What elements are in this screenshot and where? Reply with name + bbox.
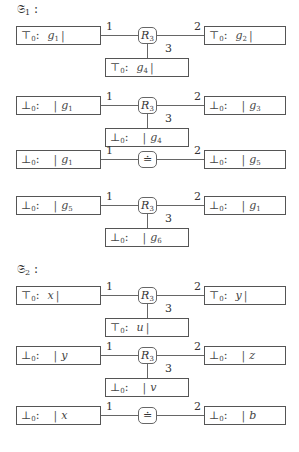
port-label-2: 2 xyxy=(194,20,201,33)
polarity-symbol: ⊥ xyxy=(21,99,31,112)
term-value: g5 xyxy=(249,153,261,166)
term-value: u xyxy=(137,321,144,334)
cursor-bar: | xyxy=(61,27,65,44)
port-label-2: 2 xyxy=(194,280,201,293)
polarity-subscript: 0 xyxy=(31,35,35,43)
polarity-label: ⊥0: xyxy=(110,379,129,400)
edge-bottom xyxy=(147,214,148,228)
cursor-bar: | xyxy=(242,347,246,364)
port-label-3: 3 xyxy=(165,362,172,375)
term-value-letter: g xyxy=(48,29,55,42)
term-box: ⊥0:|g4 xyxy=(105,128,189,147)
polarity-subscript: 0 xyxy=(120,237,124,245)
polarity-subscript: 0 xyxy=(31,159,35,167)
term-box: ⊤0:y| xyxy=(204,286,286,305)
term-box: ⊤0:g4| xyxy=(105,58,189,77)
term-value-letter: y xyxy=(236,289,242,302)
edge-bottom xyxy=(147,364,148,378)
polarity-subscript: 0 xyxy=(219,105,223,113)
polarity-symbol: ⊥ xyxy=(209,349,219,362)
port-label-2: 2 xyxy=(194,340,201,353)
edge-bottom xyxy=(147,44,148,58)
port-label-1: 1 xyxy=(106,340,113,353)
polarity-label: ⊥0: xyxy=(21,407,40,428)
term-box: ⊤0:g1| xyxy=(16,26,101,45)
polarity-label: ⊥0: xyxy=(21,97,40,118)
term-value-subscript: 1 xyxy=(68,105,72,113)
polarity-label: ⊤0: xyxy=(110,59,129,80)
port-label-2: 2 xyxy=(194,90,201,103)
edge-right xyxy=(157,415,204,416)
graph-title: 𝔖2 : xyxy=(17,262,38,277)
polarity-symbol: ⊥ xyxy=(110,381,120,394)
edge-right xyxy=(157,35,204,36)
term-box: ⊥0:|v xyxy=(105,378,189,397)
port-label-1: 1 xyxy=(106,20,113,33)
cursor-bar: | xyxy=(143,129,147,146)
term-box: ⊥0:|g1 xyxy=(16,150,101,169)
term-value-subscript: 2 xyxy=(243,35,247,43)
term-value-letter: y xyxy=(61,349,67,362)
polarity-subscript: 0 xyxy=(219,35,223,43)
term-box: ⊤0:g2| xyxy=(204,26,286,45)
term-box: ⊥0:|x xyxy=(16,406,101,425)
edge-right xyxy=(157,159,204,160)
polarity-symbol: ⊤ xyxy=(21,29,31,42)
edge-left xyxy=(101,205,138,206)
edge-left xyxy=(101,355,138,356)
cursor-bar: | xyxy=(143,229,147,246)
term-box: ⊥0:|z xyxy=(204,346,286,365)
polarity-label: ⊥0: xyxy=(21,347,40,368)
port-label-2: 2 xyxy=(194,190,201,203)
relation-node: R3 xyxy=(138,27,157,44)
edge-bottom xyxy=(147,114,148,128)
polarity-subscript: 0 xyxy=(120,137,124,145)
graph-title-glyph: 𝔖 xyxy=(17,2,25,16)
term-box: ⊥0:|g3 xyxy=(204,96,286,115)
polarity-symbol: ⊥ xyxy=(209,409,219,422)
graph-title-glyph: 𝔖 xyxy=(17,262,25,276)
graph-title-colon: : xyxy=(30,262,38,276)
polarity-label: ⊥0: xyxy=(21,151,40,172)
polarity-subscript: 0 xyxy=(120,387,124,395)
polarity-symbol: ⊤ xyxy=(110,321,120,334)
term-value: g4 xyxy=(137,61,149,74)
term-value: y xyxy=(61,349,67,362)
term-value-subscript: 1 xyxy=(68,159,72,167)
term-value-subscript: 4 xyxy=(144,67,148,75)
cursor-bar: | xyxy=(54,197,58,214)
cursor-bar: | xyxy=(244,287,248,304)
term-box: ⊤0:x| xyxy=(16,286,101,305)
cursor-bar: | xyxy=(242,407,246,424)
cursor-bar: | xyxy=(242,197,246,214)
edge-right xyxy=(157,205,204,206)
term-value-subscript: 3 xyxy=(256,105,260,113)
node-subscript: 3 xyxy=(149,105,153,113)
graph-title: 𝔖1 : xyxy=(17,2,38,17)
polarity-subscript: 0 xyxy=(31,415,35,423)
term-box: ⊥0:|g5 xyxy=(16,196,101,215)
term-value-letter: g xyxy=(137,61,144,74)
port-label-1: 1 xyxy=(106,90,113,103)
term-value-letter: u xyxy=(137,321,144,334)
relation-node: R3 xyxy=(138,347,157,364)
term-value-letter: b xyxy=(249,409,256,422)
edge-right xyxy=(157,355,204,356)
edge-left xyxy=(101,35,138,36)
polarity-symbol: ⊥ xyxy=(209,99,219,112)
term-value-subscript: 5 xyxy=(68,205,72,213)
edge-left xyxy=(101,295,138,296)
polarity-label: ⊥0: xyxy=(209,197,228,218)
edge-right xyxy=(157,295,204,296)
term-box: ⊥0:|g1 xyxy=(204,196,286,215)
cursor-bar: | xyxy=(54,347,58,364)
node-subscript: 3 xyxy=(149,295,153,303)
polarity-label: ⊥0: xyxy=(209,407,228,428)
term-value-subscript: 1 xyxy=(256,205,260,213)
term-box: ⊥0:|g5 xyxy=(204,150,286,169)
polarity-subscript: 0 xyxy=(31,205,35,213)
port-label-3: 3 xyxy=(165,112,172,125)
polarity-subscript: 0 xyxy=(120,327,124,335)
polarity-subscript: 0 xyxy=(219,415,223,423)
polarity-label: ⊥0: xyxy=(209,151,228,172)
